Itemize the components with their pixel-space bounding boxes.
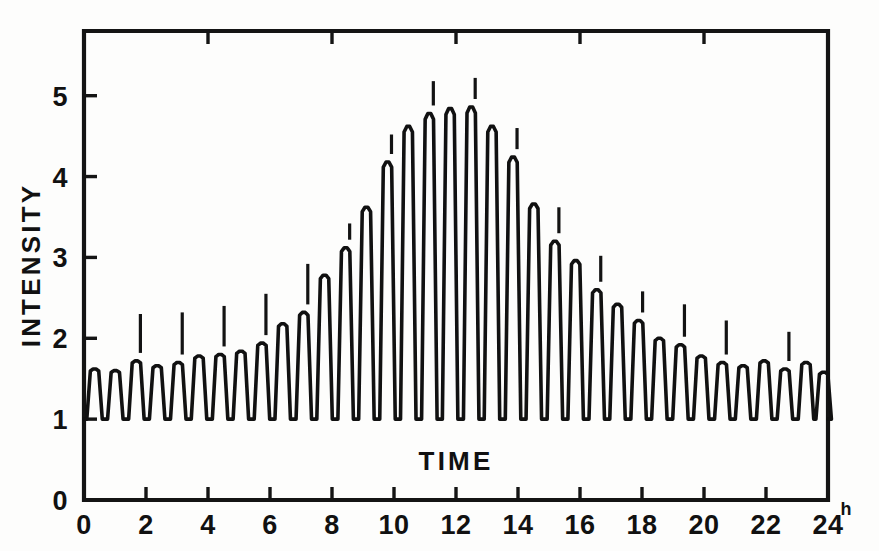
x-tick-label-16: 16 bbox=[564, 510, 595, 540]
x-tick-label-2: 2 bbox=[138, 510, 154, 540]
x-tick-label-4: 4 bbox=[200, 510, 216, 540]
y-tick-label-3: 3 bbox=[52, 243, 68, 273]
y-tick-label-4: 4 bbox=[52, 163, 68, 193]
x-tick-label-6: 6 bbox=[262, 510, 278, 540]
x-tick-label-18: 18 bbox=[626, 510, 657, 540]
y-tick-label-1: 1 bbox=[52, 405, 68, 435]
x-tick-label-20: 20 bbox=[688, 510, 719, 540]
x-tick-label-14: 14 bbox=[502, 510, 533, 540]
x-tick-label-12: 12 bbox=[440, 510, 471, 540]
figure-container: 012345 024681012141618202224 INTENSITY T… bbox=[0, 0, 879, 551]
y-axis-title: INTENSITY bbox=[16, 183, 46, 348]
x-axis-tick-labels: 024681012141618202224 bbox=[76, 510, 843, 540]
x-tick-label-10: 10 bbox=[378, 510, 409, 540]
x-tick-label-0: 0 bbox=[76, 510, 92, 540]
intensity-time-chart: 012345 024681012141618202224 INTENSITY T… bbox=[0, 0, 879, 551]
y-tick-label-2: 2 bbox=[52, 324, 68, 354]
intensity-trace bbox=[84, 107, 831, 419]
x-axis-unit-label: h bbox=[841, 499, 852, 519]
y-tick-label-0: 0 bbox=[52, 486, 68, 516]
x-tick-label-8: 8 bbox=[324, 510, 340, 540]
x-tick-label-22: 22 bbox=[750, 510, 781, 540]
y-tick-label-5: 5 bbox=[52, 82, 68, 112]
y-axis-tick-labels: 012345 bbox=[52, 82, 68, 516]
x-tick-label-24: 24 bbox=[812, 510, 843, 540]
x-axis-title: TIME bbox=[419, 446, 494, 476]
